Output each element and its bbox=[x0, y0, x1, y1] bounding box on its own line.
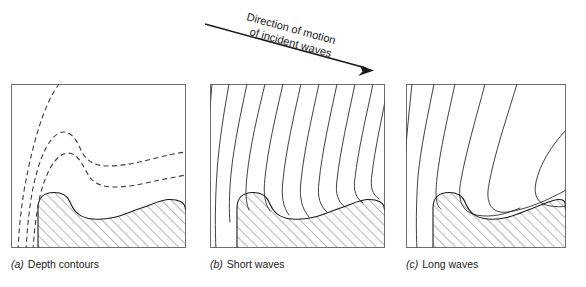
panel-b: (b)Short waves bbox=[205, 84, 388, 270]
panel-c-caption-letter: (c) bbox=[406, 258, 418, 270]
panel-c: (c)Long waves bbox=[403, 84, 566, 270]
panel-c-caption: (c)Long waves bbox=[406, 258, 478, 270]
panel-b-caption: (b)Short waves bbox=[210, 258, 285, 270]
wave-refraction-diagram: Direction of motion of incident waves (a… bbox=[0, 0, 586, 287]
panel-a-caption-label: Depth contours bbox=[28, 258, 99, 270]
direction-of-motion-annotation: Direction of motion of incident waves bbox=[205, 10, 374, 76]
panel-c-caption-label: Long waves bbox=[422, 258, 478, 270]
panel-b-caption-letter: (b) bbox=[210, 258, 223, 270]
panel-b-caption-label: Short waves bbox=[227, 258, 285, 270]
panel-a-caption-letter: (a) bbox=[11, 258, 24, 270]
panel-a: (a)Depth contours bbox=[11, 84, 186, 270]
panel-a-caption: (a)Depth contours bbox=[11, 258, 99, 270]
figure-root: Direction of motion of incident waves (a… bbox=[0, 0, 586, 287]
